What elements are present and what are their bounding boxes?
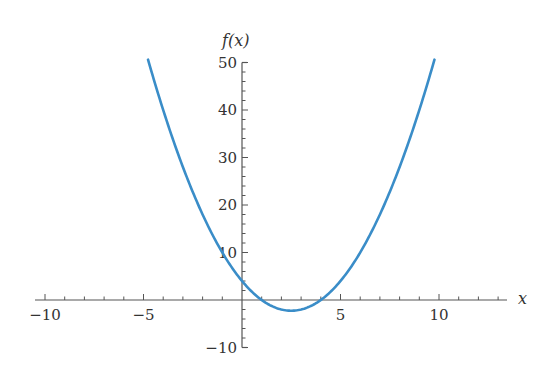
x-axis-label: x [518,289,527,308]
y-tick-label: 50 [218,54,237,72]
axes: −10−5510−101020304050 [29,54,507,357]
y-axis-label: f(x) [221,31,249,50]
x-tick-label: 10 [429,306,448,324]
y-tick-label: −10 [205,339,237,357]
y-tick-label: 40 [218,101,237,119]
y-tick-label: 20 [218,196,237,214]
x-tick-label: 5 [336,306,346,324]
x-tick-label: −5 [132,306,154,324]
y-tick-label: 30 [218,149,237,167]
function-curve [148,60,434,311]
x-tick-label: −10 [29,306,61,324]
chart: −10−5510−101020304050 x f(x) [0,0,554,372]
